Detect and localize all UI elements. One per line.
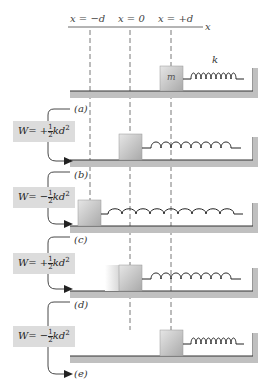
- springs: [101, 73, 244, 344]
- work-term: kd: [53, 330, 65, 341]
- work-sign: W= −: [18, 330, 48, 341]
- work-box-cd: W= +12kd2: [13, 253, 75, 274]
- work-box-de: W= −12kd2: [13, 326, 75, 347]
- spring-constant-label: k: [212, 54, 218, 65]
- tick-label-minus-d: x = −d: [70, 13, 105, 24]
- block-d: [119, 265, 142, 291]
- axis-label-x: x: [205, 21, 211, 32]
- tick-label-zero: x = 0: [118, 13, 145, 24]
- panel-label-e: (e): [74, 368, 88, 379]
- panel-label-a: (a): [74, 103, 88, 114]
- work-box-ab: W= +12kd2: [13, 121, 75, 142]
- mass-label: m: [167, 72, 176, 82]
- tick-label-plus-d: x = +d: [158, 13, 193, 24]
- work-sign: W= −: [18, 191, 48, 202]
- work-sign: W= +: [18, 257, 48, 268]
- exponent: 2: [65, 124, 69, 132]
- panel-label-b: (b): [74, 169, 88, 180]
- panel-label-c: (c): [74, 234, 87, 245]
- floors: [70, 91, 258, 363]
- work-box-bc: W= −12kd2: [13, 187, 75, 208]
- work-term: kd: [53, 191, 65, 202]
- work-term: kd: [53, 125, 65, 136]
- exponent: 2: [65, 256, 69, 264]
- block-b: [119, 134, 142, 160]
- block-e: [160, 330, 183, 356]
- walls: [253, 68, 258, 363]
- block-c: [78, 200, 101, 226]
- exponent: 2: [65, 329, 69, 337]
- work-term: kd: [53, 257, 65, 268]
- panel-label-d: (d): [74, 299, 88, 310]
- work-sign: W= +: [18, 125, 48, 136]
- exponent: 2: [65, 190, 69, 198]
